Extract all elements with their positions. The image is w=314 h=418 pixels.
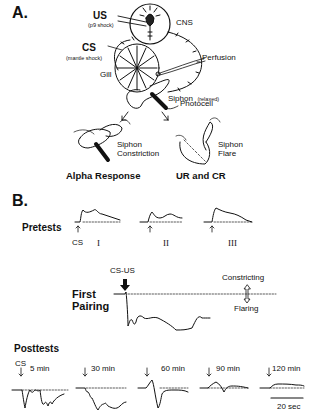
siphon-flare-label: Siphon Flare — [218, 140, 243, 158]
pretest-cs-arrows — [76, 226, 214, 232]
cs-label: CS — [82, 42, 96, 53]
ur-cr-caption: UR and CR — [176, 170, 226, 181]
posttest-interval-2: 30 min — [91, 364, 115, 373]
pretest-trial-1: I — [97, 238, 100, 248]
us-sublabel: (p9 shock) — [88, 22, 114, 28]
posttest-traces — [12, 380, 304, 410]
pretest-traces — [75, 208, 252, 222]
pretest-trial-2: II — [163, 238, 169, 248]
gill-label: Gill — [100, 70, 112, 79]
constricting-label: Constricting — [222, 273, 264, 282]
posttest-interval-3: 60 min — [161, 364, 185, 373]
scale-bar-label: 20 sec — [277, 402, 301, 411]
posttest-interval-5: 120 min — [272, 364, 300, 373]
us-label: US — [93, 10, 107, 21]
posttest-cs-label: CS — [15, 359, 26, 368]
posttest-interval-1: 5 min — [30, 364, 50, 373]
cns-label: CNS — [176, 18, 193, 27]
alpha-response-caption: Alpha Response — [66, 170, 140, 181]
perfusion-label: Perfusion — [202, 53, 236, 62]
pretest-trial-3: III — [228, 238, 237, 248]
cs-us-arrow — [120, 279, 130, 291]
photocell-label: Photocell — [180, 99, 213, 108]
posttests-title: Posttests — [14, 343, 59, 354]
posttest-interval-4: 90 min — [216, 364, 240, 373]
outcome-arrows — [122, 112, 168, 120]
siphon-flare-drawing — [176, 118, 220, 164]
cs-sublabel: (mantle shock) — [66, 55, 102, 61]
pretest-cs-label: CS — [72, 238, 83, 247]
pretests-title: Pretests — [22, 222, 61, 233]
flaring-label: Flaring — [234, 304, 258, 313]
figure-graphics — [0, 0, 314, 418]
panel-a-label: A. — [12, 4, 28, 22]
first-pairing-title: First Pairing — [72, 288, 109, 312]
cs-us-label: CS-US — [110, 266, 135, 275]
panel-b-label: B. — [12, 192, 28, 210]
siphon-constriction-label: Siphon Constriction — [117, 140, 159, 158]
